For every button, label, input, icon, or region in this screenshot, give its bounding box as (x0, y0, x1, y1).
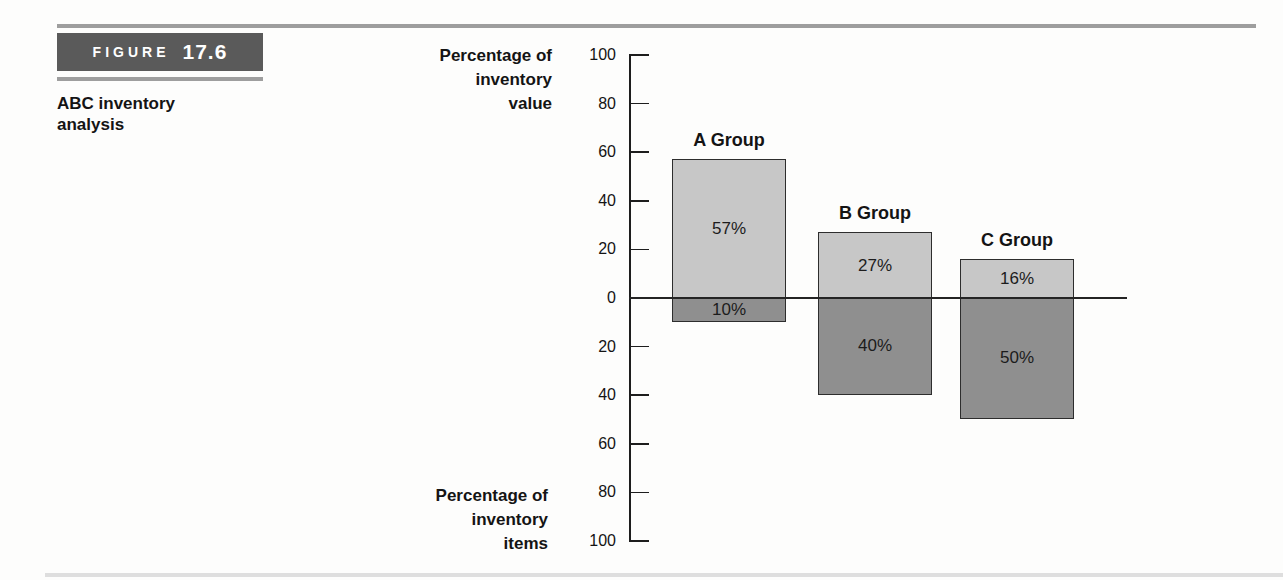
y-axis-tick-lower-100 (629, 540, 649, 542)
y-axis-tick-label-upper-40: 40 (556, 192, 616, 210)
y-axis-tick-upper-40 (629, 200, 649, 202)
y-axis-tick-label-upper-80: 80 (556, 95, 616, 113)
bottom-page-rule (45, 573, 1283, 577)
bar-c-group: 16%50% (960, 259, 1074, 419)
page: FIGURE 17.6 ABC inventory analysis Perce… (0, 0, 1283, 580)
bar-a-group-label: A Group (693, 130, 764, 150)
y-axis-tick-label-upper-60: 60 (556, 143, 616, 161)
y-axis-tick-upper-60 (629, 151, 649, 153)
y-axis-tick-lower-20 (629, 346, 649, 348)
bar-c-group-items-segment: 50% (961, 298, 1073, 419)
y-axis-tick-label-lower-20: 20 (556, 338, 616, 356)
y-axis-tick-label-lower-60: 60 (556, 435, 616, 453)
y-axis-tick-label-zero: 0 (556, 289, 616, 307)
y-axis-tick-lower-80 (629, 492, 649, 494)
bar-b-group-items-segment: 40% (819, 298, 931, 394)
bar-b-group-value-segment: 27% (819, 233, 931, 298)
abc-analysis-chart: 1008060402002040608010057%10%A Group27%4… (0, 0, 1283, 580)
y-axis-tick-lower-40 (629, 394, 649, 396)
bar-c-group-label: C Group (981, 230, 1053, 250)
y-axis-tick-lower-60 (629, 443, 649, 445)
y-axis-tick-upper-80 (629, 103, 649, 105)
zero-axis-line (629, 297, 1127, 299)
bar-c-group-value-segment: 16% (961, 260, 1073, 298)
y-axis-tick-label-upper-20: 20 (556, 240, 616, 258)
y-axis-tick-label-lower-40: 40 (556, 386, 616, 404)
bar-a-group-items-segment: 10% (673, 298, 785, 321)
bar-b-group-label: B Group (839, 203, 911, 223)
y-axis-tick-label-lower-80: 80 (556, 483, 616, 501)
y-axis-tick-upper-20 (629, 249, 649, 251)
bar-b-group: 27%40% (818, 232, 932, 395)
y-axis-tick-label-upper-100: 100 (556, 46, 616, 64)
y-axis-tick-upper-100 (629, 54, 649, 56)
y-axis-tick-label-lower-100: 100 (556, 532, 616, 550)
bar-a-group-value-segment: 57% (673, 160, 785, 298)
